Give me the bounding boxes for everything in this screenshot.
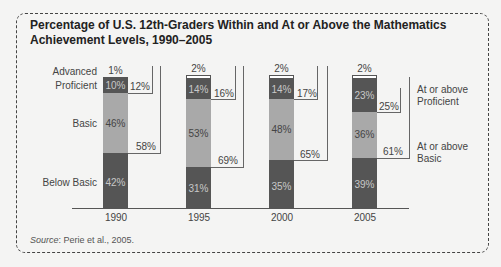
bracket-above-basic bbox=[211, 66, 244, 168]
source-text: : Perie et al., 2005. bbox=[59, 235, 135, 245]
value-advanced: 2% bbox=[186, 63, 211, 74]
value-above-basic: 61% bbox=[383, 146, 403, 157]
x-tick-1990: 1990 bbox=[96, 212, 136, 223]
source-label: Source bbox=[30, 235, 59, 245]
value-above-basic: 69% bbox=[218, 155, 238, 166]
legend-above-basic-line2: Basic bbox=[417, 153, 441, 164]
label-advanced: Advanced bbox=[30, 66, 97, 77]
chart-title: Percentage of U.S. 12th-Graders Within a… bbox=[30, 18, 470, 48]
value-basic: 46% bbox=[103, 118, 128, 129]
value-proficient: 23% bbox=[352, 90, 377, 101]
bracket-above-basic bbox=[294, 66, 328, 161]
value-advanced: 2% bbox=[269, 63, 294, 74]
value-advanced: 1% bbox=[103, 65, 128, 76]
value-above-basic: 65% bbox=[300, 149, 320, 160]
value-basic: 36% bbox=[352, 129, 377, 140]
legend-above-basic-line1: At or above bbox=[417, 141, 468, 152]
value-advanced: 2% bbox=[352, 63, 377, 74]
value-basic: 48% bbox=[269, 124, 294, 135]
value-proficient: 14% bbox=[186, 84, 211, 95]
x-tick-2005: 2005 bbox=[345, 212, 385, 223]
value-below-basic: 39% bbox=[352, 179, 377, 190]
value-basic: 53% bbox=[186, 128, 211, 139]
value-proficient: 10% bbox=[103, 80, 128, 91]
value-proficient: 14% bbox=[269, 84, 294, 95]
x-tick-2000: 2000 bbox=[262, 212, 302, 223]
chart-frame bbox=[16, 13, 489, 253]
x-axis bbox=[72, 208, 409, 209]
x-tick-1995: 1995 bbox=[179, 212, 219, 223]
source-note: Source: Perie et al., 2005. bbox=[30, 235, 134, 245]
label-proficient: Proficient bbox=[30, 80, 97, 91]
value-above-basic: 58% bbox=[136, 141, 156, 152]
legend-above-proficient-line1: At or above bbox=[417, 84, 468, 95]
value-below-basic: 31% bbox=[186, 183, 211, 194]
label-below-basic: Below Basic bbox=[20, 177, 97, 188]
label-basic: Basic bbox=[30, 118, 97, 129]
legend-above-proficient-line2: Proficient bbox=[417, 96, 459, 107]
value-below-basic: 35% bbox=[269, 181, 294, 192]
value-below-basic: 42% bbox=[103, 177, 128, 188]
